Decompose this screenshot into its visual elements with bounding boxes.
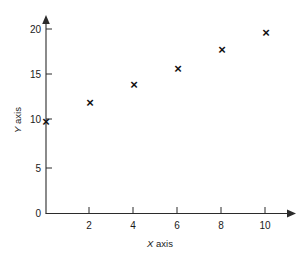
data-point-marker: × <box>130 77 138 92</box>
y-tick-label-10: 10 <box>30 114 42 125</box>
x-axis-title: X axis <box>146 238 173 249</box>
x-tick-label-4: 4 <box>130 220 136 231</box>
y-axis-title-rest: axis <box>12 107 23 127</box>
x-tick-label-2: 2 <box>86 220 92 231</box>
data-point-marker: × <box>42 114 50 129</box>
x-tick-label-6: 6 <box>174 220 180 231</box>
y-axis-title: Y axis <box>12 107 23 133</box>
chart-canvas: 20 15 10 5 0 2 4 6 8 10 X axis Y axis ××… <box>0 0 305 257</box>
y-axis-arrow-icon <box>42 15 50 24</box>
x-axis-arrow-icon <box>287 210 296 218</box>
data-point-marker: × <box>262 25 270 40</box>
scatter-plot-figure: 20 15 10 5 0 2 4 6 8 10 X axis Y axis ××… <box>0 0 305 257</box>
x-tick-labels: 2 4 6 8 10 <box>86 220 271 231</box>
data-point-series: ×××××× <box>42 25 270 129</box>
data-point-marker: × <box>218 42 226 57</box>
x-axis-title-rest: axis <box>153 238 173 249</box>
y-tick-labels: 20 15 10 5 0 <box>30 24 42 219</box>
data-point-marker: × <box>86 95 94 110</box>
x-axis <box>46 210 297 218</box>
x-tick-label-8: 8 <box>218 220 224 231</box>
y-tick-label-15: 15 <box>30 69 42 80</box>
x-tick-marks <box>89 207 265 214</box>
y-tick-label-20: 20 <box>30 24 42 35</box>
y-tick-marks <box>46 29 52 168</box>
x-tick-label-10: 10 <box>259 220 271 231</box>
y-tick-label-5: 5 <box>35 163 41 174</box>
y-tick-label-0: 0 <box>35 208 41 219</box>
data-point-marker: × <box>174 61 182 76</box>
